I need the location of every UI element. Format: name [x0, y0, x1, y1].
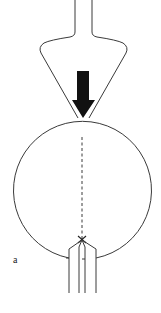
grips: [66, 240, 96, 293]
grip-right: [82, 240, 96, 293]
panel-label: a: [13, 254, 17, 265]
force-arrow-icon: [72, 71, 95, 118]
diagram-figure: [0, 0, 161, 313]
grip-left: [69, 240, 82, 293]
